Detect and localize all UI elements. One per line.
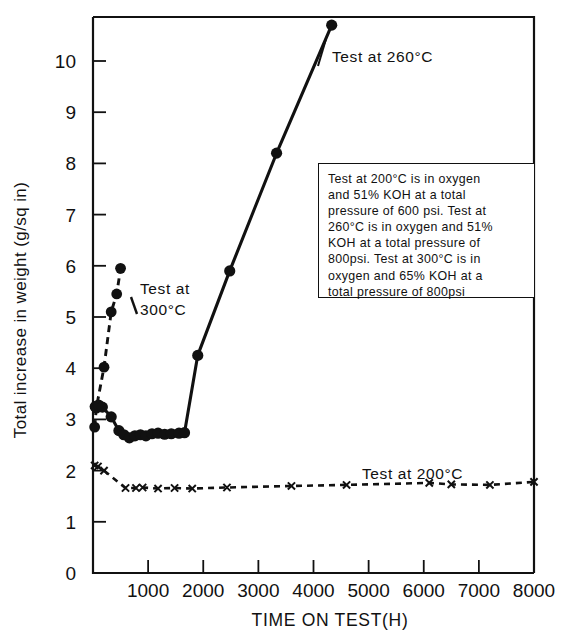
data-point <box>99 362 110 373</box>
y-axis-tick-labels: 012345678910 <box>55 51 77 584</box>
y-tick-label-2: 2 <box>65 461 76 482</box>
y-tick-label-7: 7 <box>65 205 76 226</box>
y-axis-title: Total increase in weight (g/sq in) <box>11 182 30 438</box>
x-axis-ticks <box>148 560 479 573</box>
chart-figure: 012345678910 100020003000400050006000700… <box>0 0 565 634</box>
series-line <box>95 25 332 438</box>
x-tick-label-6000: 6000 <box>403 580 445 601</box>
y-tick-label-5: 5 <box>65 307 76 328</box>
y-tick-label-10: 10 <box>55 51 76 72</box>
y-tick-label-4: 4 <box>65 358 76 379</box>
x-tick-label-8000: 8000 <box>513 580 555 601</box>
y-tick-label-3: 3 <box>65 409 76 430</box>
label-test-at-200c: Test at 200°C <box>362 465 463 483</box>
chart-plot-area: 012345678910 100020003000400050006000700… <box>0 0 565 634</box>
label-test-at-300c: Test at 300°C <box>140 278 190 320</box>
series-test-at-260c <box>90 20 338 444</box>
x-tick-label-4000: 4000 <box>292 580 334 601</box>
x-tick-label-5000: 5000 <box>347 580 389 601</box>
y-tick-label-9: 9 <box>65 102 76 123</box>
x-tick-label-3000: 3000 <box>237 580 279 601</box>
x-tick-label-7000: 7000 <box>458 580 500 601</box>
data-point <box>97 402 108 413</box>
data-point <box>115 263 126 274</box>
data-point <box>106 306 117 317</box>
series-test-at-200c <box>91 462 538 492</box>
x-axis-tick-labels: 10002000300040005000600070008000 <box>127 580 555 601</box>
conditions-note-box: Test at 200°C is in oxygen and 51% KOH a… <box>318 163 535 298</box>
x-tick-label-1000: 1000 <box>127 580 169 601</box>
x-tick-label-2000: 2000 <box>182 580 224 601</box>
y-tick-label-6: 6 <box>65 256 76 277</box>
label-300-leader <box>131 297 137 314</box>
data-point <box>326 20 337 31</box>
data-point <box>111 289 122 300</box>
data-point <box>106 411 117 422</box>
data-point <box>224 265 235 276</box>
conditions-note-text: Test at 200°C is in oxygen and 51% KOH a… <box>328 171 525 300</box>
x-axis-title: TIME ON TEST(H) <box>252 610 409 630</box>
data-point <box>89 422 100 433</box>
data-point <box>179 427 190 438</box>
y-tick-label-1: 1 <box>65 512 76 533</box>
y-axis-ticks <box>93 61 106 522</box>
label-test-at-260c: Test at 260°C <box>332 48 433 66</box>
y-tick-label-8: 8 <box>65 153 76 174</box>
data-point <box>122 484 129 491</box>
y-tick-label-0: 0 <box>65 563 76 584</box>
data-point <box>192 350 203 361</box>
data-point <box>271 148 282 159</box>
